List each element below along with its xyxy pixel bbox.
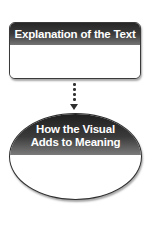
connector-dot <box>73 83 76 86</box>
connector-dot <box>73 93 76 96</box>
arrow-down-icon <box>70 104 78 110</box>
explanation-box-body[interactable] <box>10 45 140 78</box>
connector-dot <box>73 98 76 101</box>
visual-meaning-title-line1: How the Visual <box>10 123 141 136</box>
visual-meaning-ellipse: How the Visual Adds to Meaning <box>9 113 142 200</box>
visual-meaning-title: How the Visual Adds to Meaning <box>10 114 141 155</box>
connector-dot <box>73 88 76 91</box>
explanation-box-title: Explanation of the Text <box>10 23 140 45</box>
visual-meaning-title-line2: Adds to Meaning <box>10 136 141 149</box>
explanation-box: Explanation of the Text <box>9 22 141 79</box>
